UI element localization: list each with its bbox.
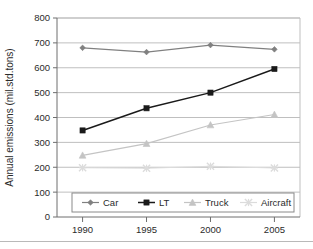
y-tick-label: 600 (34, 62, 50, 73)
legend-label: Truck (205, 197, 229, 208)
y-tick-label: 800 (34, 12, 50, 23)
data-point (272, 47, 278, 53)
footer-divider (0, 241, 313, 242)
data-point (144, 106, 149, 111)
data-point (208, 90, 213, 95)
y-tick-label: 400 (34, 112, 50, 123)
legend-marker-cross (245, 199, 252, 206)
y-tick-label: 100 (34, 187, 50, 198)
data-point (144, 49, 150, 55)
x-tick-label: 2005 (264, 224, 285, 235)
legend-label: Car (103, 197, 118, 208)
legend-label: LT (159, 197, 170, 208)
line-chart: 0100200300400500600700800199019952000200… (0, 0, 313, 249)
legend-marker-square (144, 200, 149, 205)
legend-label: Aircraft (261, 197, 291, 208)
data-point (80, 128, 85, 133)
data-point (79, 164, 86, 171)
series-line (83, 69, 275, 130)
y-tick-label: 700 (34, 37, 50, 48)
data-point (271, 164, 278, 171)
data-point (143, 165, 150, 172)
x-tick-label: 2000 (200, 224, 221, 235)
series-line (83, 45, 275, 52)
series-car (80, 42, 277, 55)
y-tick-label: 0 (45, 211, 50, 222)
data-point (272, 66, 277, 71)
y-tick-label: 200 (34, 162, 50, 173)
data-point (271, 111, 278, 117)
y-tick-label: 500 (34, 87, 50, 98)
chart-figure: 0100200300400500600700800199019952000200… (0, 0, 313, 249)
x-tick-label: 1990 (72, 224, 93, 235)
y-axis-title: Annual emissions (mil.std.tons) (4, 48, 15, 186)
x-tick-label: 1995 (136, 224, 157, 235)
data-point (80, 45, 86, 51)
series-lt (80, 66, 277, 133)
series-truck (79, 111, 278, 158)
y-tick-label: 300 (34, 137, 50, 148)
data-point (207, 163, 214, 170)
